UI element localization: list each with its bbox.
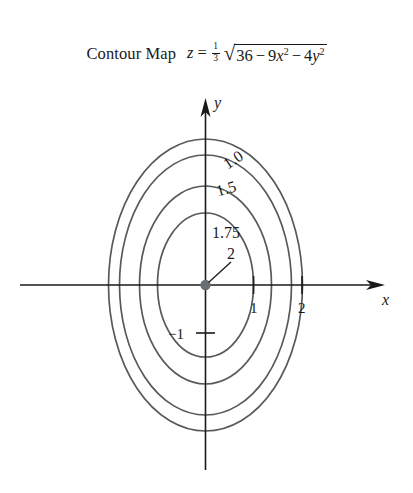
annotation-leader-line <box>209 262 232 283</box>
x-tick-label-1: 1 <box>250 300 258 316</box>
contour-plot: y x 1 2 −1 1.0 1.5 1.75 2 <box>0 0 413 493</box>
contour-label-2: 2 <box>227 245 235 262</box>
contour-label-1.0: 1.0 <box>220 147 246 172</box>
x-tick-label-2: 2 <box>298 300 306 316</box>
x-axis-label: x <box>381 291 389 308</box>
contour-label-1.75: 1.75 <box>212 224 240 241</box>
y-tick-label-minus-1: −1 <box>168 326 184 342</box>
y-axis-label: y <box>212 94 222 112</box>
